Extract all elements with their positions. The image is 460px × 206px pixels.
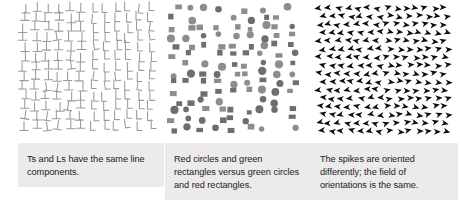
caption-text: Ts and Ls have the same line components.: [27, 153, 155, 179]
circle-and-rectangle-search-array: [165, 0, 311, 138]
panel-caption-3: The spikes are oriented differently; the…: [311, 143, 458, 200]
panel-color-shape-conjunction: Red circles and green rectangles versus …: [165, 0, 311, 138]
panel-caption-2: Red circles and green rectangles versus …: [165, 143, 311, 200]
visual-search-figure: Ts and Ls have the same line components.…: [0, 0, 460, 206]
panel-caption-1: Ts and Ls have the same line components.: [18, 143, 164, 187]
t-and-l-search-array: [18, 0, 164, 138]
panel-ts-and-ls: Ts and Ls have the same line components.: [18, 0, 164, 138]
spike-orientation-search-array: [311, 0, 458, 138]
panel-spike-orientation: The spikes are oriented differently; the…: [311, 0, 458, 138]
caption-text: The spikes are oriented differently; the…: [320, 153, 449, 193]
caption-text: Red circles and green rectangles versus …: [174, 153, 302, 193]
